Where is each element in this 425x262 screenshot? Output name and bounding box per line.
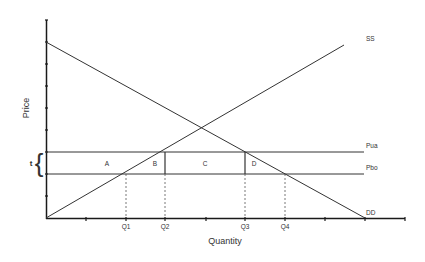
region-b-label: B [153, 160, 157, 167]
x-axis-label: Quantity [208, 236, 242, 246]
q2-label: Q2 [161, 223, 170, 231]
q1-label: Q1 [122, 223, 131, 231]
dotted-drop-lines [126, 174, 285, 218]
ss-label: SS [366, 35, 375, 42]
region-a-label: A [105, 160, 110, 167]
supply-curve [46, 45, 344, 218]
region-c-label: C [203, 160, 208, 167]
dd-label: DD [366, 209, 376, 216]
region-d-label: D [252, 160, 257, 167]
demand-curve [46, 42, 365, 218]
tax-label: t [30, 159, 33, 168]
pbo-label: Pbo [366, 164, 378, 171]
supply-demand-diagram: Price Quantity SS DD Pua Pbo Q1 Q2 Q3 Q4… [0, 0, 425, 262]
q3-label: Q3 [241, 223, 250, 231]
q4-label: Q4 [281, 223, 290, 231]
brace-icon: { [35, 148, 44, 178]
pua-label: Pua [366, 142, 378, 149]
y-axis-label: Price [21, 98, 31, 119]
